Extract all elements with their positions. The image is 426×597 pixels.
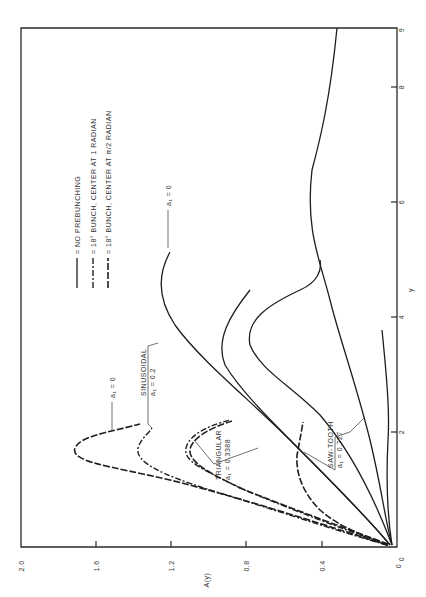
annotation-triangular-1: TRIANGULAR [215, 430, 222, 480]
curve-solid-3 [249, 260, 392, 545]
y-tick-0: 0 [398, 557, 405, 561]
legend-label-no-prebunching: = NO PREBUNCHING [74, 176, 81, 254]
annotation-sinusoidal-2: a₁ = 0.2 [149, 368, 156, 396]
curves [75, 28, 392, 545]
y-axis-ticks [391, 87, 397, 432]
annotation-sawtooth-2: a₁ = 0.727 [336, 431, 343, 468]
annotation-triangular-2: a₁ = 0.3388 [224, 439, 231, 480]
annotation-a0-right: a₁ = 0 [165, 185, 172, 206]
annotation-sinusoidal-1: SINUSOIDAL [140, 349, 147, 396]
a-axis-title: A(y) [203, 573, 211, 588]
a-axis-ticks [96, 541, 322, 547]
curve-sinusoidal [138, 428, 387, 545]
legend: = NO PREBUNCHING = 18° BUNCH, CENTER AT … [74, 111, 112, 288]
annotation-a0-top: a₁ = 0 [109, 377, 116, 398]
curve-no-prebunching [161, 252, 390, 545]
y-axis-title: y [407, 288, 415, 292]
a-tick-1.6: 1.6 [93, 560, 100, 571]
a-tick-0: 0 [395, 564, 402, 568]
a-axis-labels: 2.0 1.6 1.2 0.8 0.4 0 A(y) [18, 560, 402, 587]
annotation-sawtooth-1: SAW-TOOTH [327, 421, 334, 468]
a-tick-2.0: 2.0 [18, 560, 25, 571]
a-tick-1.2: 1.2 [168, 560, 175, 571]
y-tick-9: 9 [398, 28, 405, 32]
legend-label-pi2-radian: = 18° BUNCH, CENTER AT π/2 RADIAN [105, 111, 112, 254]
y-axis-labels: 0 2 4 6 8 9 y [398, 28, 415, 561]
y-tick-8: 8 [398, 85, 405, 89]
y-tick-2: 2 [398, 430, 405, 434]
annotations: a₁ = 0 SINUSOIDAL a₁ = 0.2 TRIANGULAR a₁… [109, 185, 364, 480]
curve-solid-2 [222, 290, 390, 545]
a-tick-0.8: 0.8 [243, 560, 250, 571]
legend-label-1-radian: = 18° BUNCH, CENTER AT 1 RADIAN [90, 118, 97, 254]
chart-canvas: 2.0 1.6 1.2 0.8 0.4 0 A(y) 0 2 4 6 8 9 y… [0, 0, 426, 597]
curve-sawtooth-long [310, 28, 392, 545]
y-tick-4: 4 [398, 315, 405, 319]
curve-baseline [382, 330, 392, 545]
y-tick-6: 6 [398, 200, 405, 204]
a-tick-0.4: 0.4 [319, 560, 326, 571]
